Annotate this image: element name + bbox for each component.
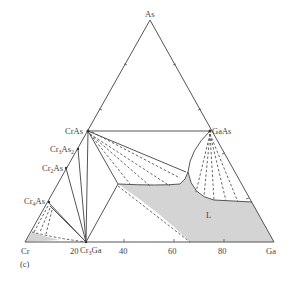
label-cr3ga: Cr3Ga: [80, 245, 102, 256]
tick-label-80: 80: [218, 246, 227, 256]
tick-label-40: 40: [119, 246, 128, 256]
ternary-diagram: As Cr Ga CrAs GaAs Cr3As2 Cr2As Cr4As Cr…: [0, 0, 289, 288]
vertex-label-ga: Ga: [266, 246, 276, 256]
label-cr3as2: Cr3As2: [50, 144, 74, 155]
region-label-l: L: [206, 210, 211, 220]
label-cr4as: Cr4As: [24, 196, 45, 207]
panel-label: (c): [20, 259, 30, 269]
vertex-label-as: As: [145, 9, 154, 19]
liquid-region: [118, 172, 274, 242]
tick-label-20: 20: [70, 246, 79, 256]
tick-label-60: 60: [168, 246, 177, 256]
label-cras: CrAs: [65, 126, 83, 136]
label-cr2as: Cr2As: [42, 163, 63, 174]
label-gaas: GaAs: [212, 126, 231, 136]
vertex-label-cr: Cr: [21, 246, 30, 256]
